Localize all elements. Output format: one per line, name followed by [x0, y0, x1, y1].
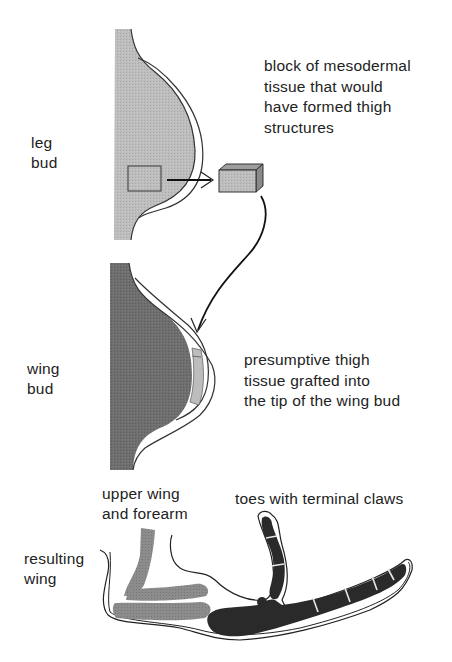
leg-bud: [114, 29, 203, 240]
wing-bud-label: wing bud: [27, 359, 60, 399]
mesoderm-block-annotation: block of mesodermal tissue that would ha…: [264, 56, 411, 138]
upper-wing-annotation: upper wing and forearm: [102, 484, 188, 524]
humerus: [124, 528, 155, 596]
tarsal-bone: [207, 564, 406, 636]
upright-toe: [262, 516, 285, 599]
resulting-wing-label: resulting wing: [24, 549, 84, 589]
graft-annotation: presumptive thigh tissue grafted into th…: [244, 350, 400, 412]
leg-bud-label: leg bud: [31, 133, 57, 173]
wing-bud: [110, 263, 215, 470]
resulting-wing: [100, 511, 412, 640]
ulna: [113, 602, 211, 620]
leg-bud-mesoderm: [114, 29, 195, 240]
graft-arrow: [191, 196, 266, 332]
mesoderm-block-cube: [219, 164, 263, 192]
toes-annotation: toes with terminal claws: [235, 489, 403, 509]
